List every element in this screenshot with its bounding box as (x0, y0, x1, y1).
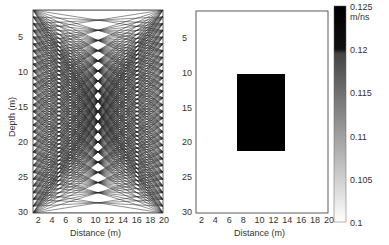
x-tick: 20 (324, 215, 334, 225)
colorbar (334, 6, 346, 222)
x-tick: 4 (50, 215, 55, 225)
colorbar-tick: 0.125 m/ns (350, 2, 389, 22)
y-tick: 20 (18, 137, 28, 147)
x-tick: 6 (63, 215, 68, 225)
figure: 2244668810101212141416161818202055101015… (0, 0, 389, 245)
y-tick: 20 (182, 137, 192, 147)
x-tick: 8 (77, 215, 82, 225)
x-tick: 16 (296, 215, 306, 225)
right-xlabel: Distance (m) (234, 228, 285, 238)
x-tick: 18 (145, 215, 155, 225)
x-tick: 14 (282, 215, 292, 225)
x-tick: 2 (36, 215, 41, 225)
left-xlabel: Distance (m) (70, 228, 121, 238)
y-tick: 25 (182, 172, 192, 182)
y-tick: 25 (18, 172, 28, 182)
x-tick: 2 (199, 215, 204, 225)
y-tick: 5 (18, 32, 23, 42)
x-tick: 8 (241, 215, 246, 225)
colorbar-tick: 0.1 (350, 218, 363, 228)
y-tick: 30 (18, 207, 28, 217)
y-tick: 15 (182, 103, 192, 113)
colorbar-tick: 0.11 (350, 132, 367, 142)
x-tick: 10 (255, 215, 265, 225)
x-tick: 10 (91, 215, 101, 225)
y-tick: 10 (182, 68, 192, 78)
x-tick: 18 (310, 215, 320, 225)
y-tick: 15 (18, 102, 28, 112)
x-tick: 6 (227, 215, 232, 225)
x-tick: 12 (104, 215, 114, 225)
x-tick: 20 (159, 215, 169, 225)
x-tick: 12 (268, 215, 278, 225)
left-ylabel: Depth (m) (7, 97, 17, 137)
velocity-anomaly (237, 74, 285, 151)
y-tick: 10 (18, 67, 28, 77)
x-tick: 14 (118, 215, 128, 225)
colorbar-tick: 0.115 (350, 88, 372, 98)
y-tick: 5 (182, 33, 187, 43)
x-tick: 16 (132, 215, 142, 225)
ray-paths (33, 10, 163, 213)
colorbar-tick: 0.105 (350, 175, 373, 185)
colorbar-tick: 0.12 (350, 45, 368, 55)
plots-canvas (0, 0, 389, 245)
x-tick: 4 (213, 215, 218, 225)
y-tick: 30 (182, 207, 192, 217)
